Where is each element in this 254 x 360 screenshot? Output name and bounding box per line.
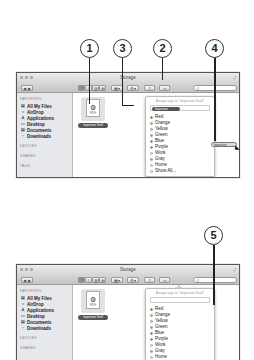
edit-tags-button[interactable]: ▭ [159,85,170,91]
tag-popover-hint: Assign tags to "Important Stuff" [150,99,210,103]
coverflow-view-button[interactable]: ▤ [99,85,106,91]
fullscreen-icon[interactable]: ⤢ [233,75,236,80]
all-files-icon: ▤ [21,104,25,108]
mouse-cursor-icon: ◣ [235,143,240,150]
tag-input-empty[interactable] [150,297,210,303]
tag-input[interactable]: Important [150,105,210,111]
tag-popover-2: Assign tags to "Important Stuff" Red Ora… [145,288,215,360]
leader-4 [214,58,216,141]
documents-icon: ▤ [21,320,25,324]
favorites-header-2: FAVORITES [17,287,72,295]
back-forward-button-2[interactable]: ◀ ▶ [21,277,33,283]
share-button-2[interactable]: ⇧ [144,277,155,283]
column-view-button-2[interactable]: ▥ [92,277,99,283]
purple-dot-icon [150,338,153,341]
action-gear-button-2[interactable]: ⚙▾ [127,277,139,283]
callout-5: 5 [204,226,223,245]
tag-popover-hint-2: Assign tags to "Important Stuff" [150,291,210,295]
callout-2: 2 [153,39,172,58]
leader-3 [122,58,123,106]
arrange-button-2[interactable]: ▦▾ [111,277,123,283]
file-name-label[interactable]: Important Stuff [78,123,108,128]
airdrop-icon: ≈ [21,302,25,306]
icon-view-button[interactable] [78,85,85,91]
sidebar-2: FAVORITES ▤All My Files ≈AirDrop AApplic… [17,285,73,360]
tag-chip-important[interactable]: Important [152,107,180,112]
tag-option-home-2[interactable]: Home [150,354,210,360]
red-dot-icon [150,308,153,311]
icon-view-button-2[interactable] [78,277,85,283]
finder-window-top: Storage ⤢ ◀ ▶ ≡ ▥ ▤ ▦▾ ⚙▾ ⇧ ▭ Q FAVORITE… [16,72,240,178]
title-bar-2[interactable]: Storage ⤢ [17,265,239,275]
window-title: Storage [17,75,239,80]
leader-3-horizontal [122,105,134,106]
yellow-dot-icon [150,128,153,131]
downloads-icon: ○ [21,326,25,330]
shared-header: SHARED [17,152,72,160]
shared-header-2: SHARED [17,344,72,352]
finder-window-bottom: Storage ⤢ ◀ ▶ ≡ ▥ ▤ ▦▾ ⚙▾ ⇧ ▭ Q FAVORITE… [16,264,240,360]
green-dot-icon [150,326,153,329]
leader-2 [162,58,163,80]
callout-1: 1 [80,39,99,58]
show-all-dot-icon [150,170,153,173]
gray-dot-icon [150,158,153,161]
search-input-2[interactable]: Q [193,277,237,283]
action-gear-button[interactable]: ⚙▾ [127,85,139,91]
applications-icon: A [21,116,25,120]
toolbar: ◀ ▶ ≡ ▥ ▤ ▦▾ ⚙▾ ⇧ ▭ Q [17,83,239,93]
tag-popover: Assign tags to "Important Stuff" Importa… [145,96,215,177]
column-view-button[interactable]: ▥ [92,85,99,91]
leader-5 [213,245,215,305]
edit-tags-button-2[interactable]: ▭ [159,277,170,283]
coverflow-view-button-2[interactable]: ▤ [99,277,106,283]
pdf-file-icon[interactable]: ⚙PDF [81,97,105,121]
yellow-dot-icon [150,320,153,323]
leader-1 [89,58,90,104]
toolbar-2: ◀ ▶ ≡ ▥ ▤ ▦▾ ⚙▾ ⇧ ▭ Q [17,275,239,285]
back-forward-button[interactable]: ◀ ▶ [21,85,33,91]
downloads-icon: ○ [21,134,25,138]
red-dot-icon [150,116,153,119]
all-files-icon: ▤ [21,296,25,300]
fullscreen-icon-2[interactable]: ⤢ [233,267,236,272]
work-dot-icon [150,152,153,155]
desktop-icon: ▭ [21,314,25,318]
callout-3: 3 [113,39,132,58]
share-button[interactable]: ⇧ [144,85,155,91]
purple-dot-icon [150,146,153,149]
title-bar[interactable]: Storage ⤢ [17,73,239,83]
tags-header: TAGS [17,162,72,170]
pdf-file-icon-2[interactable]: ⚙PDF [81,289,105,313]
callout-4: 4 [205,39,224,58]
window-title-2: Storage [17,267,239,272]
tag-option-show-all[interactable]: Show All... [150,168,210,174]
applications-icon: A [21,308,25,312]
documents-icon: ▤ [21,128,25,132]
gray-dot-icon [150,350,153,353]
blue-dot-icon [150,332,153,335]
list-view-button-2[interactable]: ≡ [85,277,92,283]
home-dot-icon [150,164,153,167]
sidebar-item-downloads[interactable]: ○Downloads [17,133,72,139]
devices-header-2: DEVICES [17,334,72,342]
devices-header: DEVICES [17,142,72,150]
orange-dot-icon [150,122,153,125]
airdrop-icon: ≈ [21,110,25,114]
sidebar-item-downloads-2[interactable]: ○Downloads [17,325,72,331]
desktop-icon: ▭ [21,122,25,126]
work-dot-icon [150,344,153,347]
orange-dot-icon [150,314,153,317]
blue-dot-icon [150,140,153,143]
dragged-tag-chip[interactable]: Important [211,142,237,147]
home-dot-icon [150,356,153,359]
favorites-header: FAVORITES [17,95,72,103]
file-name-label-2[interactable]: Important Stuff [78,315,108,320]
green-dot-icon [150,134,153,137]
sidebar: FAVORITES ▤All My Files ≈AirDrop AApplic… [17,93,73,178]
